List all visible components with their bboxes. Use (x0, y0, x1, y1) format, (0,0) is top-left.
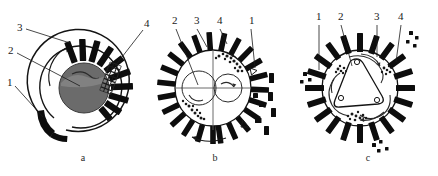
tooth (226, 122, 238, 141)
tooth (237, 46, 254, 63)
panel-a: 3 2 1 4 a (7, 17, 150, 163)
panel-a-feed-blade (37, 110, 55, 137)
tooth (307, 68, 327, 80)
panel-a-caption: a (81, 152, 86, 163)
tooth (228, 37, 241, 56)
panel-c-callout-2: 2 (338, 10, 344, 22)
tooth (251, 87, 269, 93)
panel-b-callout-4: 4 (217, 14, 223, 26)
tooth (249, 72, 268, 82)
tooth (357, 33, 363, 52)
panel-c-pivot-left (338, 95, 343, 100)
tooth (157, 92, 176, 101)
panel-c-scatter-bottom (372, 140, 389, 153)
panel-c-pivot-top (354, 59, 359, 64)
panel-a-rotor-drum (59, 63, 109, 113)
tooth (178, 41, 193, 59)
tooth (325, 115, 341, 134)
panel-a-leader-4 (115, 30, 143, 66)
tooth (368, 35, 380, 55)
tooth (64, 41, 78, 64)
tooth (248, 97, 267, 108)
panel-a-callout-2: 2 (8, 44, 14, 56)
tooth (357, 124, 363, 143)
panel-c-callout-1: 1 (316, 10, 322, 22)
panel-b-callout-3: 3 (194, 14, 200, 26)
panel-c-scatter-top-right (406, 31, 419, 48)
tooth (325, 42, 341, 61)
tooth (379, 115, 395, 134)
panel-c-pivot-bottom (374, 97, 379, 102)
tooth (167, 51, 185, 66)
tooth (387, 107, 406, 123)
tooth (181, 119, 195, 137)
panel-a-feed-blade-tail (50, 132, 68, 142)
tooth (111, 83, 133, 90)
tooth (160, 64, 179, 76)
tooth (314, 107, 333, 123)
panel-c-callout-3: 3 (374, 10, 380, 22)
panel-b-callout-2: 2 (172, 14, 178, 26)
panel-a-callout-3: 3 (17, 21, 23, 33)
tooth (235, 115, 251, 132)
tooth (340, 121, 352, 141)
panel-a-callout-1: 1 (7, 76, 13, 88)
panel-b-caption: b (213, 152, 218, 163)
tooth (396, 85, 415, 91)
panel-b: 2 3 4 1 b (157, 14, 276, 163)
tooth (157, 79, 175, 86)
tooth (379, 42, 395, 61)
panel-c-caption: c (366, 152, 371, 163)
tooth (206, 32, 213, 50)
panel-c: 1 2 3 4 c (300, 10, 419, 163)
three-panel-mechanism-diagram: 3 2 1 4 a (0, 0, 438, 176)
tooth (368, 121, 380, 141)
tooth (307, 96, 327, 108)
panel-a-callout-4: 4 (144, 17, 150, 29)
tooth (170, 111, 187, 127)
tooth (393, 68, 413, 80)
panel-b-callout-1: 1 (249, 14, 255, 26)
tooth (393, 96, 413, 108)
tooth (191, 34, 202, 53)
panel-c-callout-4: 4 (398, 10, 404, 22)
tooth (79, 39, 86, 61)
tooth (161, 102, 180, 115)
tooth (88, 40, 100, 63)
tooth (314, 53, 333, 69)
